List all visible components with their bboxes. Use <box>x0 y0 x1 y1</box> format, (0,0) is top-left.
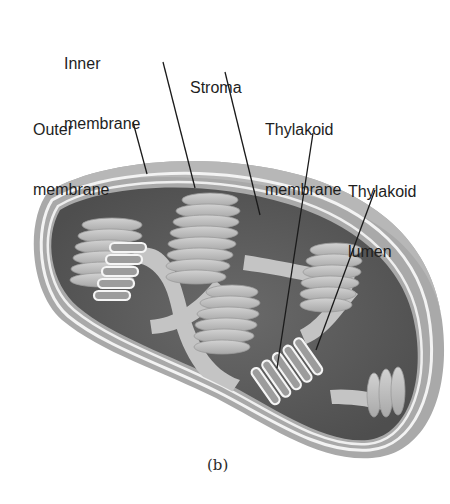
label-outer-membrane-line2: membrane <box>33 180 109 200</box>
label-inner-membrane-line1: Inner <box>64 54 140 74</box>
label-thylakoid-lumen: Thylakoid lumen <box>348 142 416 302</box>
label-stroma: Stroma <box>190 38 242 138</box>
granum-right-side <box>367 367 405 417</box>
label-stroma-line1: Stroma <box>190 78 242 98</box>
label-thylakoid-membrane-line1: Thylakoid <box>265 120 341 140</box>
label-thylakoid-lumen-line1: Thylakoid <box>348 182 416 202</box>
figure-caption: (b) <box>207 456 228 474</box>
label-outer-membrane: Outer membrane <box>33 80 109 240</box>
label-thylakoid-membrane: Thylakoid membrane <box>265 80 341 240</box>
label-thylakoid-membrane-line2: membrane <box>265 180 341 200</box>
label-outer-membrane-line1: Outer <box>33 120 109 140</box>
chloroplast-figure: Inner membrane Stroma Outer membrane Thy… <box>0 0 450 504</box>
label-thylakoid-lumen-line2: lumen <box>348 242 416 262</box>
